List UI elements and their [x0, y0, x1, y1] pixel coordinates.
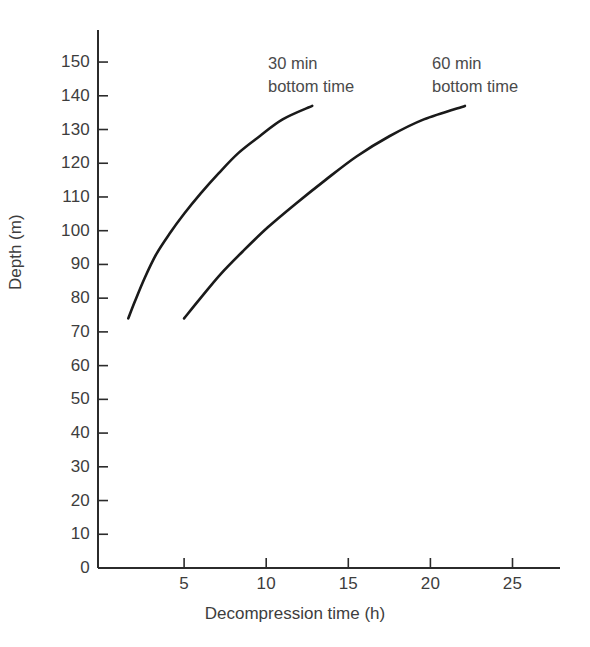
y-tick-label: 130 [61, 120, 90, 140]
y-axis-ticks [98, 62, 108, 534]
y-tick-label: 70 [71, 322, 90, 342]
series-annotation-30min-line1: 30 min [268, 52, 354, 75]
y-tick-label: 30 [71, 457, 90, 477]
series-annotation-60min: 60 min bottom time [432, 52, 518, 99]
x-axis-title: Decompression time (h) [0, 604, 590, 624]
y-tick-label: 50 [71, 389, 90, 409]
y-tick-label: 140 [61, 86, 90, 106]
y-tick-label: 40 [71, 423, 90, 443]
y-tick-label: 110 [62, 187, 90, 207]
y-tick-label: 20 [71, 491, 90, 511]
series-annotation-60min-line2: bottom time [432, 75, 518, 98]
y-tick-label: 100 [61, 221, 90, 241]
x-tick-label: 25 [503, 574, 522, 594]
x-tick-label: 15 [339, 574, 358, 594]
y-tick-label: 0 [80, 558, 90, 578]
y-tick-label: 90 [71, 254, 90, 274]
chart-figure: 0102030405060708090100110120130140150 51… [0, 0, 590, 647]
x-tick-label: 10 [257, 574, 276, 594]
series-annotation-30min-line2: bottom time [268, 75, 354, 98]
x-axis-ticks [184, 558, 512, 568]
y-tick-label: 10 [71, 524, 90, 544]
y-tick-label: 80 [71, 288, 90, 308]
y-tick-label: 60 [71, 356, 90, 376]
y-tick-label: 120 [61, 153, 90, 173]
series-annotation-30min: 30 min bottom time [268, 52, 354, 99]
y-tick-label: 150 [61, 52, 90, 72]
series-line-60min [184, 106, 465, 319]
series-annotation-60min-line1: 60 min [432, 52, 518, 75]
y-axis-title: Depth (m) [6, 214, 26, 290]
x-tick-label: 5 [179, 574, 189, 594]
x-tick-label: 20 [421, 574, 440, 594]
